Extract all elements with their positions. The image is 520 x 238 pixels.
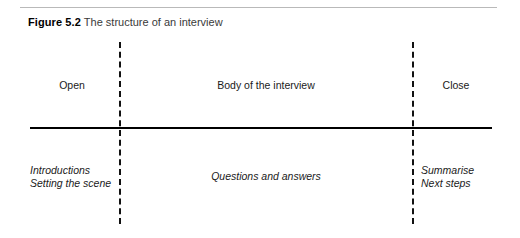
stage-heading-close: Close (417, 78, 495, 92)
top-divider-rule (20, 7, 497, 8)
activity-item: Introductions (30, 164, 114, 177)
activity-item: Setting the scene (30, 177, 114, 190)
activity-item: Summarise (421, 164, 511, 177)
stage-activities-open: Introductions Setting the scene (30, 164, 114, 190)
figure-number: Figure 5.2 (28, 16, 81, 28)
figure-container: Figure 5.2 The structure of an interview… (0, 0, 520, 238)
figure-title: The structure of an interview (81, 16, 223, 28)
divider-body-close (412, 42, 414, 224)
stage-heading-open: Open (30, 78, 114, 92)
stage-activities-body: Questions and answers (124, 170, 408, 183)
figure-caption: Figure 5.2 The structure of an interview (28, 15, 223, 29)
stage-activities-close: Summarise Next steps (421, 164, 511, 190)
activity-item: Questions and answers (124, 170, 408, 183)
divider-open-body (119, 42, 121, 224)
stage-heading-body: Body of the interview (124, 78, 408, 92)
timeline-axis (30, 127, 492, 129)
activity-item: Next steps (421, 177, 511, 190)
